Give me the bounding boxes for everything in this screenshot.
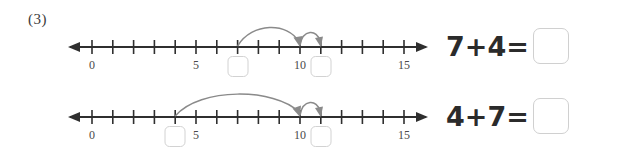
numberline-row-2: 0 5 10 15 xyxy=(0,82,440,150)
tick-label-15: 15 xyxy=(398,58,410,73)
equation-row-1: 7+4= xyxy=(446,20,626,72)
end-blank-box-row-1[interactable] xyxy=(310,56,331,77)
axis-group-1 xyxy=(68,42,428,52)
tick-label-5: 5 xyxy=(193,128,199,143)
tick-label-0: 0 xyxy=(89,128,95,143)
axis-group-2 xyxy=(68,112,428,122)
start-blank-box-row-1[interactable] xyxy=(227,56,248,77)
tick-label-10: 10 xyxy=(294,58,306,73)
left-arrowhead-icon xyxy=(68,42,80,52)
equation-text-row-1: 7+4= xyxy=(446,33,529,60)
numberline-graphic-1 xyxy=(0,12,440,82)
start-blank-box-row-2[interactable] xyxy=(165,126,186,147)
tick-label-10: 10 xyxy=(294,128,306,143)
answer-box-row-1[interactable] xyxy=(533,28,569,64)
small-jump-arc-1 xyxy=(300,32,323,47)
worksheet-problem-3: (3) xyxy=(0,0,626,150)
numberline-row-1: 0 5 10 15 xyxy=(0,12,440,82)
numberline-graphic-2 xyxy=(0,82,440,150)
small-jump-arrowhead-icon xyxy=(315,107,323,118)
end-blank-box-row-2[interactable] xyxy=(310,126,331,147)
equation-text-row-2: 4+7= xyxy=(446,103,529,130)
equation-row-2: 4+7= xyxy=(446,90,626,142)
tick-label-0: 0 xyxy=(89,58,95,73)
tick-label-5: 5 xyxy=(193,58,199,73)
big-jump-arc-1 xyxy=(238,27,303,47)
right-arrowhead-icon xyxy=(416,42,428,52)
answer-box-row-2[interactable] xyxy=(533,98,569,134)
small-jump-arrowhead-icon xyxy=(315,37,323,48)
left-arrowhead-icon xyxy=(68,112,80,122)
tick-label-15: 15 xyxy=(398,128,410,143)
right-arrowhead-icon xyxy=(416,112,428,122)
small-jump-arc-2 xyxy=(300,102,323,117)
